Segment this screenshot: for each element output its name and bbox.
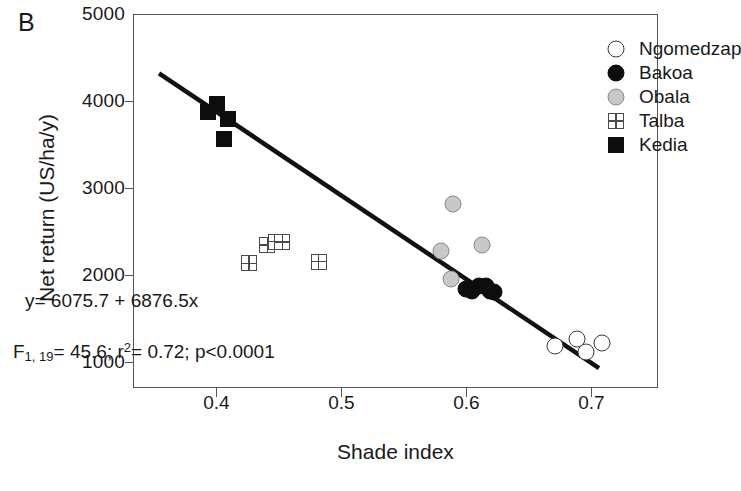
data-point-talba [241,255,257,271]
data-point-kedia [220,111,236,127]
legend-marker-circle-grey-icon [606,87,626,107]
marker-glyph [608,65,625,82]
data-point-talba [274,234,290,250]
y-tick-mark [125,275,134,276]
marker-glyph [608,89,625,106]
legend-label: Ngomedzap [639,38,741,60]
legend-item-kedia: Kedia [606,133,741,157]
plot-area: NgomedzapBakoaObalaTalbaKedia [133,14,658,388]
panel-label: B [18,8,35,37]
legend-item-talba: Talba [606,109,741,133]
regression-equation: y= 6075.7 + 6876.5x [25,290,198,312]
legend-label: Obala [639,86,690,108]
legend-marker-square-grid-icon [606,111,626,131]
stat-f-value: = 45.6; [54,341,118,362]
data-point-bakoa [486,284,503,301]
data-point-obala [433,242,450,259]
stat-f-symbol: F [13,341,25,362]
data-point-ngomedzap [594,334,611,351]
data-point-ngomedzap [546,337,563,354]
data-point-obala [445,196,462,213]
legend: NgomedzapBakoaObalaTalbaKedia [606,37,741,157]
x-tick-mark [216,388,217,397]
x-axis-title: Shade index [133,440,658,464]
marker-glyph [608,137,624,153]
data-point-kedia [216,131,232,147]
y-tick-label: 4000 [82,90,125,112]
marker-glyph [608,113,624,129]
legend-marker-circle-filled-icon [606,63,626,83]
legend-item-bakoa: Bakoa [606,61,741,85]
stat-f-subscript: 1, 19 [25,349,54,364]
legend-marker-circle-open-icon [606,39,626,59]
x-tick-mark [341,388,342,397]
data-point-obala [473,236,490,253]
y-tick-mark [125,188,134,189]
stat-r-value: = 0.72; [131,341,195,362]
data-point-ngomedzap [578,343,595,360]
x-tick-mark [466,388,467,397]
y-tick-label: 3000 [82,177,125,199]
stat-p-value: p<0.0001 [195,341,275,362]
y-axis-tick-labels: 10002000300040005000 [55,0,125,491]
marker-glyph [608,41,625,58]
legend-label: Talba [639,110,684,132]
stat-r-superscript: 2 [124,340,131,355]
data-point-kedia [209,96,225,112]
x-tick-mark [591,388,592,397]
legend-label: Kedia [639,134,688,156]
legend-item-ngomedzap: Ngomedzap [606,37,741,61]
y-tick-label: 5000 [82,3,125,25]
y-tick-mark [125,362,134,363]
data-point-talba [311,254,327,270]
legend-marker-square-filled-icon [606,135,626,155]
regression-statistics: F1, 19= 45.6; r2= 0.72; p<0.0001 [13,340,275,364]
y-tick-mark [125,101,134,102]
y-tick-label: 2000 [82,264,125,286]
legend-label: Bakoa [639,62,693,84]
y-axis-title: Net return (US/ha/y) [35,43,59,373]
legend-item-obala: Obala [606,85,741,109]
